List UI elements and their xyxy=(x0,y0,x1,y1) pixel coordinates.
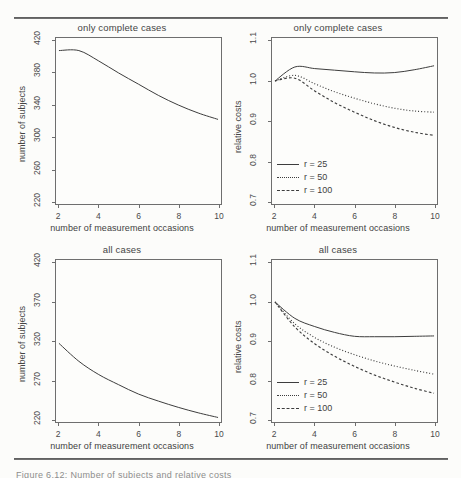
x-tick-mark xyxy=(274,423,275,426)
x-tick-label: 4 xyxy=(304,211,324,221)
page-rule-bottom xyxy=(14,458,448,460)
x-tick-mark xyxy=(355,205,356,208)
legend-label: r = 50 xyxy=(304,172,327,182)
y-tick-mark xyxy=(268,81,271,82)
panel-top-right: only complete cases relative costs numbe… xyxy=(232,22,444,240)
x-tick-mark xyxy=(395,423,396,426)
legend-label: r = 25 xyxy=(304,377,327,387)
x-tick-label: 6 xyxy=(129,211,149,221)
y-tick-label: 340 xyxy=(23,98,51,108)
x-tick-mark xyxy=(98,423,99,426)
x-tick-mark xyxy=(435,205,436,208)
x-tick-mark xyxy=(314,423,315,426)
y-tick-mark xyxy=(52,302,55,303)
x-tick-label: 8 xyxy=(169,211,189,221)
y-axis-label: number of subjects xyxy=(17,306,27,382)
series-line xyxy=(275,78,434,136)
y-tick-label: 1.1 xyxy=(239,33,267,43)
y-tick-label: 370 xyxy=(23,295,51,305)
legend-label: r = 50 xyxy=(304,390,327,400)
x-tick-label: 10 xyxy=(425,211,445,221)
x-tick-mark xyxy=(219,205,220,208)
legend-item: r = 25 xyxy=(277,375,332,388)
y-tick-mark xyxy=(52,381,55,382)
y-tick-mark xyxy=(268,202,271,203)
panel-title: only complete cases xyxy=(16,22,228,33)
x-tick-mark xyxy=(139,205,140,208)
panel-title: only complete cases xyxy=(232,22,444,33)
x-tick-label: 4 xyxy=(304,429,324,439)
y-axis-label: relative costs xyxy=(233,101,243,154)
x-tick-mark xyxy=(179,423,180,426)
legend-label: r = 100 xyxy=(304,185,332,195)
series-line xyxy=(59,343,218,417)
x-tick-mark xyxy=(98,205,99,208)
legend-item: r = 100 xyxy=(277,183,332,196)
y-tick-label: 220 xyxy=(23,413,51,423)
y-tick-mark xyxy=(52,137,55,138)
series-line xyxy=(275,302,434,337)
y-tick-mark xyxy=(268,302,271,303)
x-tick-label: 8 xyxy=(169,429,189,439)
y-tick-mark xyxy=(52,262,55,263)
panel-title: all cases xyxy=(232,244,444,255)
y-tick-label: 320 xyxy=(23,334,51,344)
x-tick-mark xyxy=(435,423,436,426)
y-tick-mark xyxy=(268,420,271,421)
x-axis-label: number of measurement occasions xyxy=(16,441,228,451)
plot-curves xyxy=(56,38,221,204)
x-tick-mark xyxy=(139,423,140,426)
y-tick-mark xyxy=(268,162,271,163)
panel-title: all cases xyxy=(16,244,228,255)
y-tick-mark xyxy=(52,420,55,421)
x-tick-label: 2 xyxy=(264,429,284,439)
y-tick-mark xyxy=(268,262,271,263)
x-tick-label: 8 xyxy=(385,429,405,439)
x-tick-label: 10 xyxy=(209,211,229,221)
x-tick-label: 6 xyxy=(345,429,365,439)
figure-caption: Figure 6.12: Number of subjects and rela… xyxy=(16,470,436,478)
y-tick-label: 1.1 xyxy=(239,255,267,265)
series-line xyxy=(275,75,434,112)
y-tick-mark xyxy=(52,72,55,73)
legend-line-swatch xyxy=(277,390,299,400)
x-tick-label: 2 xyxy=(48,211,68,221)
x-tick-mark xyxy=(219,423,220,426)
y-tick-mark xyxy=(52,40,55,41)
y-tick-label: 0.8 xyxy=(239,374,267,384)
series-line xyxy=(59,50,218,120)
x-tick-label: 6 xyxy=(345,211,365,221)
y-tick-label: 220 xyxy=(23,195,51,205)
x-tick-label: 6 xyxy=(129,429,149,439)
y-tick-label: 420 xyxy=(23,33,51,43)
x-tick-mark xyxy=(395,205,396,208)
x-tick-label: 4 xyxy=(88,429,108,439)
x-axis-label: number of measurement occasions xyxy=(232,441,444,451)
y-tick-label: 1.0 xyxy=(239,74,267,84)
y-tick-mark xyxy=(52,341,55,342)
x-tick-label: 2 xyxy=(48,429,68,439)
page-rule-top xyxy=(14,17,448,19)
legend-label: r = 25 xyxy=(304,159,327,169)
y-tick-label: 0.9 xyxy=(239,114,267,124)
legend-item: r = 100 xyxy=(277,401,332,414)
plot-area xyxy=(55,37,222,205)
y-tick-mark xyxy=(52,170,55,171)
x-tick-mark xyxy=(58,205,59,208)
y-tick-label: 380 xyxy=(23,65,51,75)
x-axis-label: number of measurement occasions xyxy=(16,223,228,233)
panel-top-left: only complete cases number of subjects n… xyxy=(16,22,228,240)
y-tick-mark xyxy=(268,121,271,122)
x-tick-label: 8 xyxy=(385,211,405,221)
plot-area xyxy=(55,259,222,423)
y-tick-label: 270 xyxy=(23,374,51,384)
y-tick-mark xyxy=(52,105,55,106)
y-tick-mark xyxy=(52,202,55,203)
x-tick-label: 2 xyxy=(264,211,284,221)
y-tick-label: 0.8 xyxy=(239,155,267,165)
legend-item: r = 25 xyxy=(277,157,332,170)
y-tick-label: 1.0 xyxy=(239,295,267,305)
series-line xyxy=(275,302,434,374)
y-tick-label: 0.9 xyxy=(239,334,267,344)
x-tick-label: 4 xyxy=(88,211,108,221)
